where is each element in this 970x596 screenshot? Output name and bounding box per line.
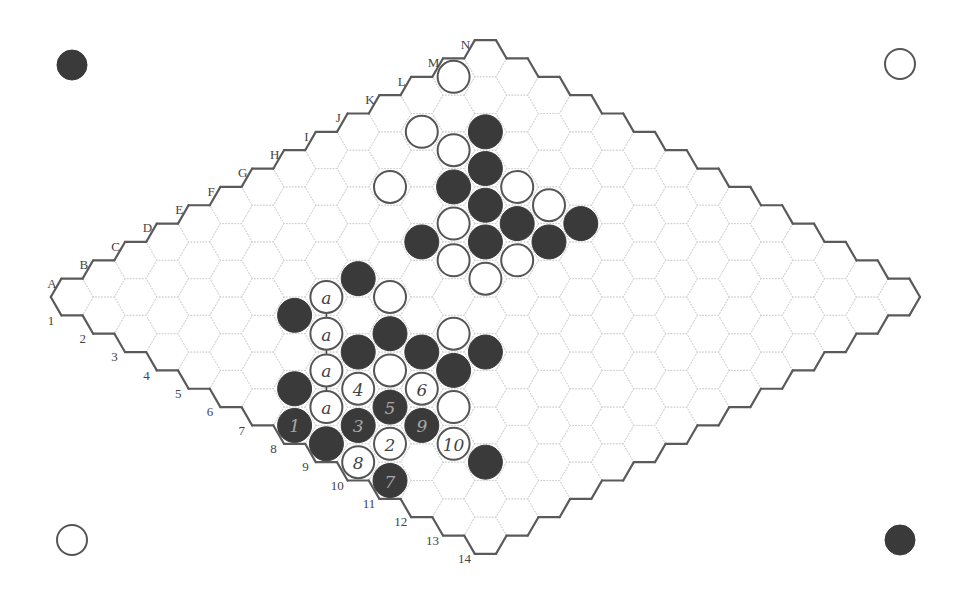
- hex-cell-F12[interactable]: [560, 389, 602, 426]
- hex-cell-M10[interactable]: [719, 224, 761, 261]
- hex-cell-B13[interactable]: [464, 481, 506, 518]
- hex-cell-D13[interactable]: [528, 444, 570, 481]
- hex-cell-K8[interactable]: [591, 224, 633, 261]
- hex-cell-H11[interactable]: [591, 334, 633, 371]
- hex-cell-I8[interactable]: [528, 260, 570, 297]
- hex-cell-M2[interactable]: [464, 77, 506, 114]
- hex-cell-L5[interactable]: [528, 150, 570, 187]
- hex-cell-J9[interactable]: [591, 260, 633, 297]
- hex-cell-G12[interactable]: [591, 370, 633, 407]
- hex-cell-I13[interactable]: [687, 352, 729, 389]
- hex-cell-I11[interactable]: [623, 315, 665, 352]
- hex-cell-J8[interactable]: [560, 242, 602, 279]
- hex-cell-M7[interactable]: [623, 169, 665, 206]
- hex-cell-I9[interactable]: [560, 279, 602, 316]
- hex-cell-H4[interactable]: [369, 205, 411, 242]
- hex-cell-F10[interactable]: [496, 352, 538, 389]
- hex-cell-B12[interactable]: [432, 462, 474, 499]
- hex-cell-H2[interactable]: [305, 169, 347, 206]
- hex-cell-J13[interactable]: [719, 334, 761, 371]
- hex-cell-M9[interactable]: [687, 205, 729, 242]
- hex-cell-F11[interactable]: [528, 370, 570, 407]
- hex-cell-H12[interactable]: [623, 352, 665, 389]
- hex-cell-L12[interactable]: [750, 279, 792, 316]
- hex-cell-F13[interactable]: [591, 407, 633, 444]
- hex-cell-G9[interactable]: [496, 315, 538, 352]
- hex-cell-E6[interactable]: [337, 297, 379, 334]
- hex-cell-J10[interactable]: [623, 279, 665, 316]
- hex-cell-E2[interactable]: [210, 224, 252, 261]
- hex-cell-K12[interactable]: [719, 297, 761, 334]
- hex-cell-I10[interactable]: [591, 297, 633, 334]
- hex-cell-K13[interactable]: [750, 315, 792, 352]
- hex-cell-M12[interactable]: [782, 260, 824, 297]
- hex-cell-L8[interactable]: [623, 205, 665, 242]
- hex-cell-I2[interactable]: [337, 150, 379, 187]
- hex-cell-D11[interactable]: [464, 407, 506, 444]
- hex-cell-D3[interactable]: [210, 260, 252, 297]
- hex-cell-G8[interactable]: [464, 297, 506, 334]
- hex-cell-E13[interactable]: [560, 425, 602, 462]
- hex-cell-F7[interactable]: [401, 297, 443, 334]
- hex-cell-M5[interactable]: [560, 132, 602, 169]
- hex-cell-M6[interactable]: [591, 150, 633, 187]
- hex-cell-M8[interactable]: [655, 187, 697, 224]
- hex-cell-M4[interactable]: [528, 114, 570, 151]
- hex-cell-B4[interactable]: [178, 315, 220, 352]
- hex-cell-C3[interactable]: [178, 279, 220, 316]
- hex-cell-H3[interactable]: [337, 187, 379, 224]
- hex-cell-G11[interactable]: [560, 352, 602, 389]
- hex-cell-L4[interactable]: [496, 132, 538, 169]
- hex-cell-L7[interactable]: [591, 187, 633, 224]
- hex-cell-L2[interactable]: [432, 95, 474, 132]
- hex-cell-F3[interactable]: [273, 224, 315, 261]
- hex-cell-G6[interactable]: [401, 260, 443, 297]
- hex-cell-I12[interactable]: [655, 334, 697, 371]
- hex-cell-K9[interactable]: [623, 242, 665, 279]
- hex-cell-G5[interactable]: [369, 242, 411, 279]
- hex-cell-G4[interactable]: [337, 224, 379, 261]
- hex-cell-M3[interactable]: [496, 95, 538, 132]
- hex-cell-M11[interactable]: [750, 242, 792, 279]
- hex-cell-C6[interactable]: [273, 334, 315, 371]
- hex-cell-J2[interactable]: [369, 132, 411, 169]
- hex-cell-H13[interactable]: [655, 370, 697, 407]
- hex-cell-L11[interactable]: [719, 260, 761, 297]
- hex-cell-G7[interactable]: [432, 279, 474, 316]
- hex-cell-L10[interactable]: [687, 242, 729, 279]
- hex-cell-J12[interactable]: [687, 315, 729, 352]
- hex-cell-B11[interactable]: [401, 444, 443, 481]
- hex-cell-G3[interactable]: [305, 205, 347, 242]
- hex-cell-E12[interactable]: [528, 407, 570, 444]
- hex-cell-E10[interactable]: [464, 370, 506, 407]
- hex-cell-J11[interactable]: [655, 297, 697, 334]
- hex-cell-B3[interactable]: [146, 297, 188, 334]
- hex-cell-C5[interactable]: [242, 315, 284, 352]
- hex-cell-E4[interactable]: [273, 260, 315, 297]
- hex-cell-L9[interactable]: [655, 224, 697, 261]
- hex-cell-D4[interactable]: [242, 279, 284, 316]
- hex-cell-H8[interactable]: [496, 279, 538, 316]
- hex-cell-F4[interactable]: [305, 242, 347, 279]
- hex-cell-G2[interactable]: [273, 187, 315, 224]
- hex-cell-D12[interactable]: [496, 425, 538, 462]
- hex-cell-L6[interactable]: [560, 169, 602, 206]
- hex-cell-I4[interactable]: [401, 187, 443, 224]
- hex-cell-H9[interactable]: [528, 297, 570, 334]
- hex-cell-K10[interactable]: [655, 260, 697, 297]
- hex-cell-L13[interactable]: [782, 297, 824, 334]
- hex-cell-K11[interactable]: [687, 279, 729, 316]
- hex-cell-B6[interactable]: [242, 352, 284, 389]
- hex-cell-E3[interactable]: [242, 242, 284, 279]
- hex-cell-G10[interactable]: [528, 334, 570, 371]
- hex-cell-C2[interactable]: [146, 260, 188, 297]
- hex-cell-H10[interactable]: [560, 315, 602, 352]
- hex-cell-C13[interactable]: [496, 462, 538, 499]
- hex-cell-B5[interactable]: [210, 334, 252, 371]
- hex-cell-C4[interactable]: [210, 297, 252, 334]
- hex-cell-B2[interactable]: [114, 279, 156, 316]
- hex-cell-F2[interactable]: [242, 205, 284, 242]
- hex-cell-E11[interactable]: [496, 389, 538, 426]
- hex-cell-D2[interactable]: [178, 242, 220, 279]
- hex-cell-G13[interactable]: [623, 389, 665, 426]
